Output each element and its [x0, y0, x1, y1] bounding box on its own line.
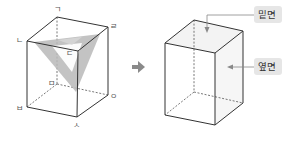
- vertex-label-b: ㅂ: [16, 104, 23, 113]
- lateral-tag: 옆면: [254, 58, 282, 75]
- vertex-label-r: ㄹ: [110, 22, 117, 31]
- left-prism: ㄱ ㄴ ㄷ ㄹ ㅁ ㅂ ㅅ ㅇ: [16, 5, 117, 130]
- prism-diagram: ㄱ ㄴ ㄷ ㄹ ㅁ ㅂ ㅅ ㅇ: [0, 0, 292, 142]
- base-label: 밑면: [258, 9, 276, 20]
- base-tag: 밑면: [254, 6, 282, 23]
- right-prism: 밑면 옆면: [165, 6, 282, 125]
- vertex-label-n: ㄴ: [16, 36, 23, 45]
- vertex-label-g: ㄱ: [54, 5, 61, 14]
- vertex-label-s: ㅅ: [73, 121, 80, 130]
- vertex-label-m: ㅁ: [48, 79, 55, 88]
- cross-section-triangle: [34, 34, 100, 92]
- lateral-label: 옆면: [258, 61, 276, 72]
- vertex-label-o: ㅇ: [110, 92, 117, 101]
- arrow-right-icon: [132, 61, 145, 73]
- vertex-label-d: ㄷ: [66, 49, 73, 58]
